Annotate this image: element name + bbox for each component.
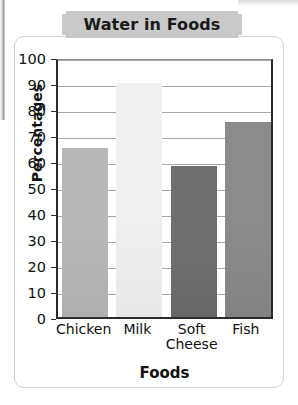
y-axis-tick-mark	[51, 85, 56, 86]
y-axis-tick-mark	[51, 59, 56, 60]
y-axis-tick-mark	[51, 163, 56, 164]
y-axis-tick-mark	[51, 293, 56, 294]
y-axis-tick-label: 0	[0, 312, 46, 327]
y-axis-tick-label: 70	[0, 130, 46, 145]
y-axis-tick-label: 90	[0, 78, 46, 93]
y-axis-tick-mark	[51, 215, 56, 216]
bar-soft-cheese	[171, 166, 217, 317]
chart-title: Water in Foods	[84, 15, 221, 34]
y-axis-tick-mark	[51, 267, 56, 268]
y-axis-tick-mark	[51, 137, 56, 138]
chart-title-banner: Water in Foods	[66, 11, 238, 38]
y-axis-tick-label: 50	[0, 182, 46, 197]
chart-figure: Water in Foods Percentages 0102030405060…	[0, 0, 298, 405]
y-axis-tick-mark	[51, 319, 56, 320]
y-axis-tick-mark	[51, 241, 56, 242]
y-axis-tick-mark	[51, 189, 56, 190]
bar-fish	[225, 122, 271, 317]
x-axis-tick-label: Fish	[219, 322, 273, 337]
x-axis-tick-label: Milk	[110, 322, 164, 337]
bar-milk	[116, 83, 162, 317]
x-axis-label: Foods	[56, 364, 273, 382]
plot-wrapper: Percentages 0102030405060708090100 Chick…	[0, 0, 298, 405]
y-axis-tick-label: 20	[0, 260, 46, 275]
bar-chicken	[62, 148, 108, 317]
y-axis-tick-label: 100	[0, 52, 46, 67]
y-axis-tick-label: 60	[0, 156, 46, 171]
y-axis-tick-label: 30	[0, 234, 46, 249]
x-axis-tick-label: SoftCheese	[165, 322, 219, 351]
y-axis-tick-mark	[51, 111, 56, 112]
y-axis-tick-label: 10	[0, 286, 46, 301]
bar-series	[58, 60, 271, 317]
y-axis-tick-label: 80	[0, 104, 46, 119]
x-axis-tick-label: Chicken	[56, 322, 110, 337]
y-axis-tick-label: 40	[0, 208, 46, 223]
plot-area	[56, 59, 273, 319]
